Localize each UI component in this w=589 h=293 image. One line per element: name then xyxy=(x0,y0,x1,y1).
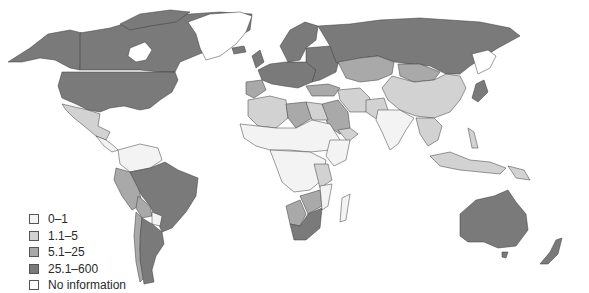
region-india xyxy=(376,110,414,150)
region-korea-japan xyxy=(472,80,488,102)
region-western-europe xyxy=(258,62,316,88)
legend-label: 1.1–5 xyxy=(48,230,78,242)
region-indonesia xyxy=(430,152,506,174)
legend-swatch-icon xyxy=(29,247,39,257)
legend-item-25-600: 25.1–600 xyxy=(29,261,126,278)
legend-item-0-1: 0–1 xyxy=(29,211,126,228)
region-australia xyxy=(460,190,528,248)
legend-label: 25.1–600 xyxy=(48,263,98,275)
legend-swatch-icon xyxy=(29,264,39,274)
region-alaska xyxy=(8,30,82,70)
region-new-zealand xyxy=(540,238,562,264)
legend-swatch-icon xyxy=(29,214,39,224)
legend-swatch-icon xyxy=(29,280,39,290)
region-tasmania xyxy=(502,252,508,258)
region-papua xyxy=(508,166,530,180)
region-kamchatka xyxy=(472,50,496,74)
region-iceland xyxy=(232,46,246,54)
region-turkey xyxy=(306,84,340,96)
region-southeast-asia xyxy=(416,118,442,146)
legend-item-1-5: 1.1–5 xyxy=(29,228,126,245)
region-mozambique xyxy=(320,184,332,210)
region-iberia xyxy=(246,80,266,98)
region-usa xyxy=(58,72,178,112)
region-north-africa-west xyxy=(248,96,288,128)
legend-label: 5.1–25 xyxy=(48,246,85,258)
legend-label: No information xyxy=(48,279,126,291)
legend-item-no-information: No information xyxy=(29,277,126,293)
region-uk xyxy=(252,50,264,68)
legend-item-5-25: 5.1–25 xyxy=(29,244,126,261)
region-madagascar xyxy=(340,194,350,222)
legend-swatch-icon xyxy=(29,231,39,241)
region-sahel xyxy=(240,120,340,152)
region-philippines xyxy=(468,128,478,148)
legend-label: 0–1 xyxy=(48,213,68,225)
region-horn-of-africa xyxy=(326,140,350,166)
map-legend: 0–1 1.1–5 5.1–25 25.1–600 No information xyxy=(29,211,126,293)
